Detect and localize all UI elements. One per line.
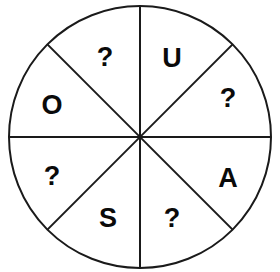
sector-label-right-upper: ? [220,85,237,112]
sector-label-top-right: U [162,45,182,72]
puzzle-wheel: U ? A ? S ? O ? [0,0,280,272]
sector-label-bottom-left: S [99,205,117,232]
sector-label-top-left: ? [97,44,114,71]
wheel-graphic [0,0,280,272]
sector-label-left-upper: O [41,92,62,119]
sector-label-left-lower: ? [44,163,61,190]
sector-label-right-lower: A [218,165,238,192]
sector-label-bottom-right: ? [164,205,181,232]
divider-lines-group [9,6,271,268]
